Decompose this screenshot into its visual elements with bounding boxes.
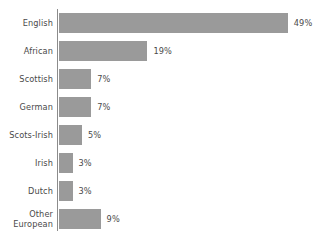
bar-row: Scottish7%: [0, 65, 321, 93]
bar-value-label: 3%: [79, 177, 92, 205]
bar: [59, 209, 101, 229]
category-label: Scottish: [1, 65, 53, 93]
bar-chart: English49%African19%Scottish7%German7%Sc…: [0, 0, 321, 238]
category-label: Irish: [1, 149, 53, 177]
bar-row: English49%: [0, 9, 321, 37]
bar-value-label: 19%: [153, 37, 172, 65]
category-label: English: [1, 9, 53, 37]
plot-area: English49%African19%Scottish7%German7%Sc…: [0, 0, 321, 238]
bar-value-label: 9%: [107, 205, 120, 233]
bar: [59, 41, 148, 61]
bar-row: Scots-Irish5%: [0, 121, 321, 149]
bar-row: Dutch3%: [0, 177, 321, 205]
bar: [59, 69, 92, 89]
category-label: German: [1, 93, 53, 121]
bar-value-label: 5%: [88, 121, 101, 149]
bar-row: German7%: [0, 93, 321, 121]
bar: [59, 181, 73, 201]
bar-row: African19%: [0, 37, 321, 65]
category-label: Other European: [1, 205, 53, 233]
bar: [59, 153, 73, 173]
bar-row: Irish3%: [0, 149, 321, 177]
bar-value-label: 7%: [97, 93, 110, 121]
bar-value-label: 49%: [294, 9, 313, 37]
bar-row: Other European9%: [0, 205, 321, 233]
category-label: Scots-Irish: [1, 121, 53, 149]
bar: [59, 125, 82, 145]
bar-value-label: 3%: [79, 149, 92, 177]
category-label: Dutch: [1, 177, 53, 205]
bar: [59, 97, 92, 117]
category-label: African: [1, 37, 53, 65]
bar-value-label: 7%: [97, 65, 110, 93]
bar: [59, 13, 288, 33]
